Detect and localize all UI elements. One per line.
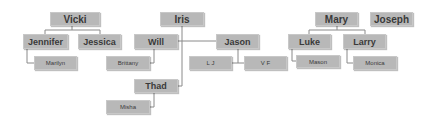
node-luke[interactable]: Luke: [288, 34, 331, 49]
node-larry[interactable]: Larry: [343, 34, 386, 49]
node-vicki[interactable]: Vicki: [50, 12, 100, 26]
node-mason[interactable]: Mason: [296, 55, 340, 68]
node-monica[interactable]: Monica: [353, 56, 397, 70]
node-marilyn[interactable]: Marilyn: [34, 56, 77, 70]
node-jessica[interactable]: Jessica: [78, 34, 121, 49]
node-mary[interactable]: Mary: [315, 12, 358, 26]
node-jason[interactable]: Jason: [216, 34, 259, 49]
node-joseph[interactable]: Joseph: [370, 12, 413, 26]
node-misha[interactable]: Misha: [106, 100, 150, 114]
node-thad[interactable]: Thad: [134, 79, 178, 93]
node-brittany[interactable]: Brittany: [106, 56, 150, 70]
node-lj[interactable]: L J: [189, 56, 232, 70]
node-iris[interactable]: Iris: [160, 12, 204, 26]
node-jennifer[interactable]: Jennifer: [23, 34, 68, 49]
node-will[interactable]: Will: [134, 34, 178, 49]
node-vf[interactable]: V F: [244, 56, 287, 70]
